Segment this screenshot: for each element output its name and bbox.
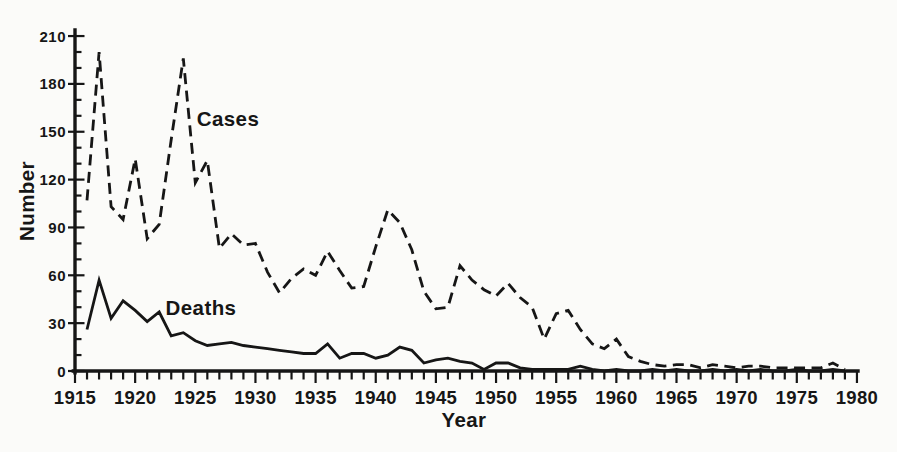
x-tick-label: 1960 — [595, 387, 637, 408]
y-tick-label: 60 — [48, 267, 66, 284]
y-tick-label: 180 — [39, 75, 66, 92]
x-tick-label: 1935 — [294, 387, 336, 408]
x-tick-label: 1915 — [54, 387, 96, 408]
x-tick-label: 1975 — [776, 387, 818, 408]
x-tick-label: 1955 — [535, 387, 577, 408]
cases-series-label: Cases — [197, 107, 259, 130]
deaths-line — [87, 280, 845, 371]
x-tick-label: 1965 — [655, 387, 697, 408]
x-tick-label: 1945 — [415, 387, 457, 408]
deaths-series-label: Deaths — [166, 296, 237, 319]
cases-line — [87, 52, 845, 369]
figure-canvas: 0306090120150180210 19151920192519301935… — [0, 0, 897, 452]
x-tick-label: 1930 — [234, 387, 276, 408]
y-axis-tick-labels: 0306090120150180210 — [39, 28, 66, 380]
x-axis-tick-labels: 1915192019251930193519401945195019551960… — [54, 387, 878, 408]
data-series — [87, 52, 845, 371]
y-tick-label: 30 — [48, 315, 66, 332]
x-tick-label: 1980 — [836, 387, 878, 408]
y-tick-label: 150 — [39, 123, 66, 140]
y-tick-label: 210 — [39, 28, 66, 45]
axes — [73, 30, 858, 373]
x-axis-ticks — [75, 371, 857, 383]
y-tick-label: 90 — [48, 219, 66, 236]
x-tick-label: 1950 — [475, 387, 517, 408]
x-tick-label: 1970 — [715, 387, 757, 408]
y-tick-label: 0 — [57, 363, 66, 380]
epidemic-line-chart: 0306090120150180210 19151920192519301935… — [0, 0, 897, 452]
x-tick-label: 1920 — [114, 387, 156, 408]
x-axis-title: Year — [442, 408, 487, 431]
y-axis-title: Number — [15, 161, 38, 241]
x-tick-label: 1940 — [355, 387, 397, 408]
y-tick-label: 120 — [39, 171, 66, 188]
x-tick-label: 1925 — [174, 387, 216, 408]
